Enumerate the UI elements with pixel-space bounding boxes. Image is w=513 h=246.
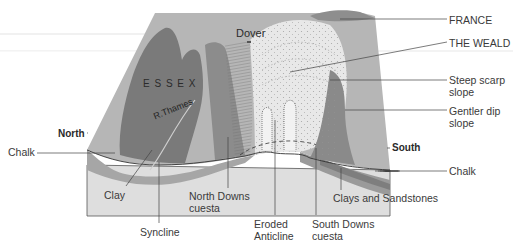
label-leaders: [0, 0, 513, 246]
